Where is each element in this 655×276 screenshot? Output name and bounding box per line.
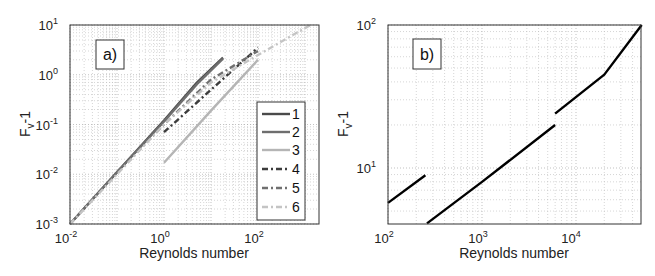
chart-panel-b: b) 102103104 102101 Reynolds number Fv-1: [335, 16, 642, 261]
tick-label: 101: [39, 16, 58, 33]
tick-label: 101: [357, 159, 376, 176]
y-tick-labels-a: 10110010-110-210-3: [36, 16, 58, 232]
x-axis-label-b: Reynolds number: [459, 245, 569, 261]
legend-label: 3: [292, 142, 300, 158]
y-axis-label-a: Fv-1: [17, 111, 36, 137]
tick-label: 104: [561, 229, 580, 246]
tick-label: 10-2: [36, 165, 58, 182]
x-axis-label-a: Reynolds number: [139, 245, 249, 261]
tick-label: 102: [357, 16, 376, 33]
legend-label: 2: [292, 124, 300, 140]
legend-a: 123456: [257, 102, 305, 220]
tick-label: 10-3: [36, 215, 58, 232]
panel-label-box-a: a): [96, 40, 124, 69]
legend-label: 6: [292, 199, 300, 215]
legend-label: 4: [292, 161, 300, 177]
tick-label: 102: [244, 229, 263, 246]
tick-label: 100: [150, 229, 169, 246]
tick-label: 10-1: [36, 116, 58, 133]
figure: a) 123456 10-2100102 10110010-110-210-3 …: [0, 0, 655, 276]
tick-label: 10-2: [55, 229, 77, 246]
chart-panel-a: a) 123456 10-2100102 10110010-110-210-3 …: [17, 16, 319, 261]
tick-label: 100: [39, 66, 58, 83]
y-axis-label-b: Fv-1: [335, 111, 354, 137]
panel-label-b: b): [420, 46, 434, 63]
y-tick-labels-b: 102101: [357, 16, 376, 176]
tick-label: 103: [468, 229, 487, 246]
x-tick-labels-a: 10-2100102: [55, 229, 264, 246]
legend-label: 5: [292, 180, 300, 196]
x-tick-labels-b: 102103104: [374, 229, 580, 246]
tick-label: 102: [374, 229, 393, 246]
panel-label-a: a): [103, 46, 117, 63]
legend-label: 1: [292, 106, 300, 122]
panel-label-box-b: b): [413, 39, 441, 69]
